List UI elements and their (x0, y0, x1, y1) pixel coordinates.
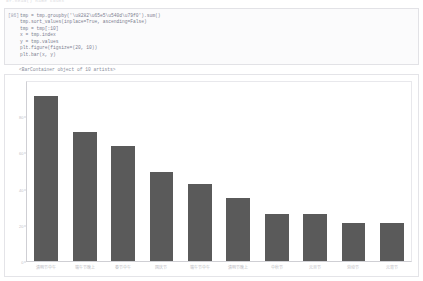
bar (265, 214, 289, 261)
cell-prompt-label: [86] (8, 13, 19, 20)
chart-axes: 清明节中午端午节晚上春节中午国庆节端午节中午清明节晚上中秋节元旦节劳动节元宵节 … (26, 81, 412, 262)
bar (380, 223, 404, 261)
notebook-input-cell[interactable]: [86] tmp = tmp.groupby('\u8282\u65e5\u54… (4, 8, 419, 65)
bar-item: 元宵节 (373, 82, 411, 261)
x-axis-tick-label: 元宵节 (386, 264, 398, 270)
x-axis-tick-label: 端午节晚上 (75, 264, 95, 270)
bar (303, 214, 327, 261)
bar (73, 132, 97, 261)
y-axis-tick-mark (24, 189, 26, 190)
bar (342, 223, 366, 261)
code-line: tmp = tmp[:10] (20, 26, 161, 33)
bar-item: 劳动节 (334, 82, 372, 261)
x-axis-tick-label: 元旦节 (309, 264, 321, 270)
bar (34, 96, 58, 261)
x-axis-tick-label: 端午节中午 (190, 264, 210, 270)
bar (226, 198, 250, 261)
bar (111, 146, 135, 261)
bar (150, 172, 174, 262)
y-axis-tick-mark (24, 262, 26, 263)
code-editor[interactable]: tmp = tmp.groupby('\u8282\u65e5\u540d\u7… (20, 13, 161, 59)
bar-item: 国庆节 (142, 82, 180, 261)
matplotlib-figure: 清明节中午端午节晚上春节中午国庆节端午节中午清明节晚上中秋节元旦节劳动节元宵节 … (4, 74, 419, 277)
bar-item: 中秋节 (257, 82, 295, 261)
previous-cell-remnant: df.head() name count (0, 0, 423, 7)
x-axis-tick-label: 春节中午 (115, 264, 131, 270)
bar (188, 184, 212, 261)
code-line: plt.figure(figsize=(20, 10)) (20, 45, 161, 52)
code-line: plt.bar(x, y) (20, 52, 161, 59)
bar-item: 元旦节 (296, 82, 334, 261)
bar-item: 春节中午 (104, 82, 142, 261)
bar-item: 清明节中午 (27, 82, 65, 261)
x-axis-tick-label: 清明节晚上 (228, 264, 248, 270)
bar-item: 端午节晚上 (65, 82, 103, 261)
code-line: tmp = tmp.groupby('\u8282\u65e5\u540d\u7… (20, 13, 161, 20)
y-axis-tick-mark (24, 153, 26, 154)
x-axis-tick-label: 国庆节 (155, 264, 167, 270)
screenshot-root: df.head() name count [86] tmp = tmp.grou… (0, 0, 423, 281)
y-axis-tick-mark (24, 117, 26, 118)
y-axis-tick-mark (24, 225, 26, 226)
ghost-text: df.head() name count (6, 0, 65, 3)
bar-item: 端午节中午 (181, 82, 219, 261)
x-axis-tick-label: 中秋节 (271, 264, 283, 270)
cell-output-repr: <BarContainer object of 10 artists> (19, 67, 116, 72)
bar-item: 清明节晚上 (219, 82, 257, 261)
x-axis-tick-label: 劳动节 (347, 264, 359, 270)
bar-series: 清明节中午端午节晚上春节中午国庆节端午节中午清明节晚上中秋节元旦节劳动节元宵节 (27, 82, 411, 261)
code-line: y = tmp.values (20, 39, 161, 46)
code-line: tmp.sort_values(inplace=True, ascending=… (20, 19, 161, 26)
x-axis-tick-label: 清明节中午 (36, 264, 56, 270)
code-line: x = tmp.index (20, 32, 161, 39)
